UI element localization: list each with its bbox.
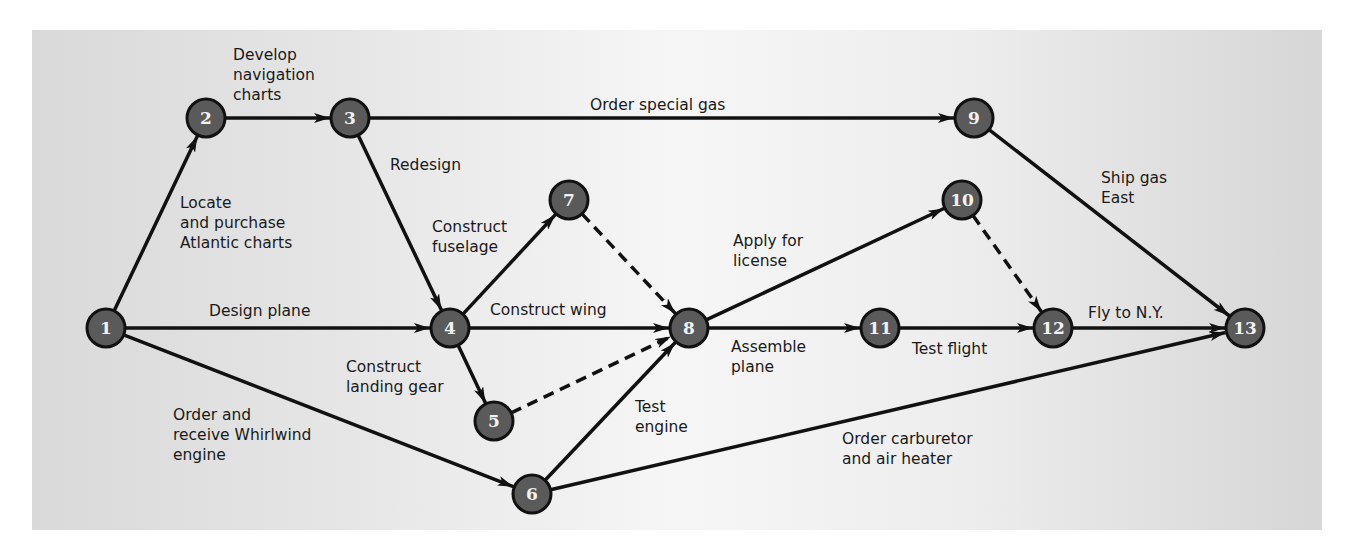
edge-label-line: Redesign — [390, 156, 461, 174]
edge-label-4-5: Constructlanding gear — [346, 358, 444, 396]
edge-label-line: Locate — [180, 194, 231, 212]
edge-label-3-9: Order special gas — [590, 96, 725, 114]
node-label: 3 — [344, 108, 356, 128]
edge-label-line: Assemble — [731, 338, 806, 356]
edge-label-line: Order special gas — [590, 96, 725, 114]
node-label: 11 — [868, 318, 892, 338]
edge-label-line: Order and — [173, 406, 251, 424]
edge-label-line: Develop — [233, 46, 297, 64]
edge-label-8-10: Apply forlicense — [733, 232, 804, 270]
node-label: 5 — [488, 411, 500, 431]
edge-label-8-11: Assembleplane — [731, 338, 806, 376]
labels-layer: Locateand purchaseAtlantic chartsDevelop… — [173, 46, 1167, 468]
edge-label-line: Apply for — [733, 232, 804, 250]
edge-label-line: charts — [233, 86, 281, 104]
edge-label-line: engine — [635, 418, 688, 436]
node-label: 2 — [200, 108, 212, 128]
edge-label-line: engine — [173, 446, 226, 464]
node-10: 10 — [943, 181, 981, 219]
node-label: 8 — [683, 318, 695, 338]
edge-label-2-3: Developnavigationcharts — [233, 46, 315, 104]
edge-label-line: Test — [634, 398, 666, 416]
edge-label-1-6: Order andreceive Whirlwindengine — [173, 406, 311, 464]
edge-label-3-4: Redesign — [390, 156, 461, 174]
node-9: 9 — [955, 99, 993, 137]
edge-label-1-2: Locateand purchaseAtlantic charts — [180, 194, 292, 252]
edge-label-line: East — [1101, 189, 1134, 207]
edge-label-11-12: Test flight — [911, 340, 987, 358]
edge-label-line: Design plane — [209, 302, 310, 320]
edge-label-line: Construct — [346, 358, 421, 376]
edge-label-4-7: Constructfuselage — [432, 218, 507, 256]
edge-label-line: fuselage — [432, 238, 498, 256]
edge-label-line: and purchase — [180, 214, 285, 232]
edge-label-line: Order carburetor — [842, 430, 973, 448]
node-4: 4 — [431, 309, 469, 347]
edge-label-line: license — [733, 252, 787, 270]
node-label: 6 — [526, 484, 538, 504]
edge-label-line: landing gear — [346, 378, 444, 396]
node-label: 4 — [444, 318, 456, 338]
node-1: 1 — [87, 309, 125, 347]
edge-label-1-4: Design plane — [209, 302, 310, 320]
node-12: 12 — [1034, 309, 1072, 347]
node-11: 11 — [861, 309, 899, 347]
node-label: 9 — [968, 108, 980, 128]
edge-label-line: Construct wing — [490, 301, 607, 319]
node-label: 12 — [1041, 318, 1065, 338]
edge-4-5 — [458, 345, 485, 403]
edge-label-line: Construct — [432, 218, 507, 236]
node-label: 13 — [1233, 318, 1257, 338]
edge-9-13 — [989, 130, 1229, 316]
edge-label-4-8: Construct wing — [490, 301, 607, 319]
node-2: 2 — [187, 99, 225, 137]
node-label: 1 — [100, 318, 112, 338]
node-3: 3 — [331, 99, 369, 137]
node-label: 7 — [563, 190, 575, 210]
edge-label-line: receive Whirlwind — [173, 426, 311, 444]
edge-label-9-13: Ship gasEast — [1101, 169, 1167, 207]
edge-label-6-8: Testengine — [634, 398, 688, 436]
edge-label-line: Atlantic charts — [180, 234, 292, 252]
node-6: 6 — [513, 475, 551, 513]
edge-10-12-dummy — [973, 215, 1041, 311]
edge-7-8-dummy — [582, 214, 675, 314]
edge-label-line: navigation — [233, 66, 315, 84]
edge-label-6-13: Order carburetorand air heater — [842, 430, 973, 468]
edge-label-line: and air heater — [842, 450, 953, 468]
node-13: 13 — [1226, 309, 1264, 347]
network-diagram: Locateand purchaseAtlantic chartsDevelop… — [0, 0, 1352, 559]
edge-label-line: plane — [731, 358, 774, 376]
node-8: 8 — [670, 309, 708, 347]
edge-label-12-13: Fly to N.Y. — [1088, 304, 1164, 322]
node-5: 5 — [475, 402, 513, 440]
edge-label-line: Fly to N.Y. — [1088, 304, 1164, 322]
edge-label-line: Test flight — [911, 340, 987, 358]
node-7: 7 — [550, 181, 588, 219]
edge-label-line: Ship gas — [1101, 169, 1167, 187]
node-label: 10 — [950, 190, 974, 210]
